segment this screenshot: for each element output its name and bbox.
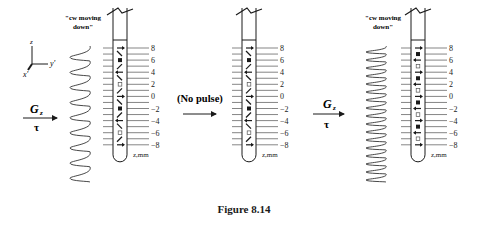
coordinate-axes xyxy=(28,46,48,70)
spin-diag-up xyxy=(246,137,251,142)
spin-open xyxy=(416,89,420,93)
panel-1: 86420−2−4−6−8z,mm"cw movingdown" xyxy=(65,8,160,182)
tick-label: 4 xyxy=(449,68,453,77)
tick-label: −2 xyxy=(449,105,458,114)
spin-open xyxy=(247,83,251,87)
spin-filled xyxy=(416,52,420,56)
spin-left xyxy=(413,131,421,135)
spin-open xyxy=(118,83,122,87)
arrow-label-subscript: z xyxy=(39,109,43,117)
spin-diag-down xyxy=(117,99,122,104)
tick-label: 0 xyxy=(151,92,155,101)
spin-diag-up xyxy=(117,113,122,118)
spin-diag-down xyxy=(117,75,122,80)
spin-filled xyxy=(247,107,251,111)
spin-right xyxy=(415,70,423,74)
axis-unit-label: z,mm xyxy=(262,151,278,159)
tick-label: −4 xyxy=(449,117,458,126)
spin-right xyxy=(415,46,423,50)
tick-label: −6 xyxy=(280,129,289,138)
spin-right xyxy=(117,46,125,50)
spin-filled xyxy=(118,107,122,111)
tick-label: −6 xyxy=(449,129,458,138)
tick-label: −2 xyxy=(280,105,289,114)
spin-right xyxy=(117,94,125,98)
spin-left xyxy=(413,58,421,62)
spin-left xyxy=(413,82,421,86)
tick-label: −4 xyxy=(151,117,160,126)
spin-filled xyxy=(416,76,420,80)
tick-label: 6 xyxy=(280,56,284,65)
gradient-pulse-arrow-2: G z τ xyxy=(313,97,344,130)
tick-label: 4 xyxy=(151,68,155,77)
spin-filled xyxy=(416,100,420,104)
arrow-label-g: G xyxy=(30,102,39,116)
spin-filled xyxy=(416,125,420,129)
axis-unit-label: z,mm xyxy=(431,151,447,159)
spin-right xyxy=(117,143,125,147)
magnetization-helix xyxy=(366,46,386,182)
tick-label: −8 xyxy=(151,141,160,150)
magnetization-helix xyxy=(70,46,90,182)
spin-open xyxy=(416,64,420,68)
spin-left xyxy=(244,119,252,123)
tick-label: 2 xyxy=(449,80,453,89)
spin-diag-up xyxy=(117,64,122,69)
tick-label: −8 xyxy=(280,141,289,150)
tick-label: 8 xyxy=(280,44,284,53)
axis-label-x: x' xyxy=(22,70,29,79)
no-pulse-arrow: (No pulse) xyxy=(177,93,223,114)
spin-right xyxy=(415,119,423,123)
tick-label: 6 xyxy=(151,56,155,65)
spin-open xyxy=(118,131,122,135)
tick-label: −4 xyxy=(280,117,289,126)
tick-label: 6 xyxy=(449,56,453,65)
spin-diag-up xyxy=(246,113,251,118)
helix-label: down" xyxy=(73,23,93,31)
arrow-label-subscript: z xyxy=(332,104,336,112)
arrow-label-tau: τ xyxy=(34,121,39,133)
figure-caption: Figure 8.14 xyxy=(0,203,488,215)
helix-label: "cw moving xyxy=(65,14,101,22)
helix-label: down" xyxy=(373,23,393,31)
panel-2: 86420−2−4−6−8z,mm xyxy=(232,8,289,162)
arrow-label-tau: τ xyxy=(324,118,329,130)
axis-label-z: z xyxy=(29,38,33,46)
spin-diag-down xyxy=(117,124,122,129)
spin-right xyxy=(246,46,254,50)
spin-open xyxy=(247,131,251,135)
tick-label: 8 xyxy=(151,44,155,53)
tick-label: 0 xyxy=(449,92,453,101)
spin-diag-down xyxy=(246,99,251,104)
tick-label: −6 xyxy=(151,129,160,138)
tick-label: 2 xyxy=(280,80,284,89)
spin-right xyxy=(415,94,423,98)
spin-diag-down xyxy=(246,75,251,80)
spin-left xyxy=(115,119,123,123)
arrow-label-g: G xyxy=(323,97,332,111)
spin-left xyxy=(244,70,252,74)
helix-label: "cw moving xyxy=(365,14,401,22)
spin-left xyxy=(413,107,421,111)
spin-diag-up xyxy=(246,64,251,69)
spin-diag-up xyxy=(246,88,251,93)
spin-right xyxy=(415,143,423,147)
tick-label: 8 xyxy=(449,44,453,53)
spin-open xyxy=(416,137,420,141)
axis-unit-label: z,mm xyxy=(133,151,149,159)
axis-label-y: y' xyxy=(49,59,56,68)
no-pulse-label: (No pulse) xyxy=(177,93,223,105)
panel-3: 86420−2−4−6−8z,mm"cw movingdown" xyxy=(365,8,458,182)
spin-diag-up xyxy=(117,88,122,93)
spin-left xyxy=(115,70,123,74)
tick-label: 0 xyxy=(280,92,284,101)
figure-8-14: z y' x' G z τ (No pulse) G z τ 86420−2−4… xyxy=(0,0,488,225)
spin-filled xyxy=(118,58,122,62)
spin-right xyxy=(246,94,254,98)
spin-diag-down xyxy=(246,124,251,129)
tick-label: −8 xyxy=(449,141,458,150)
tick-label: 4 xyxy=(280,68,284,77)
spin-right xyxy=(246,143,254,147)
tick-label: −2 xyxy=(151,105,160,114)
spin-filled xyxy=(247,58,251,62)
